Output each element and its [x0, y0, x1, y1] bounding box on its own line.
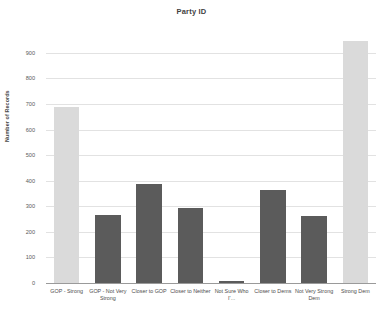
x-axis-baseline [46, 283, 376, 284]
x-tick-label: Closer to Neither [170, 288, 211, 295]
gridline [46, 206, 376, 207]
x-tick-label: Closer to GOP [129, 288, 170, 295]
y-tick-label: 400 [0, 178, 35, 184]
bar[interactable] [95, 215, 121, 283]
bar[interactable] [260, 190, 286, 283]
y-tick-label: 700 [0, 101, 35, 107]
gridline [46, 130, 376, 131]
bar[interactable] [343, 41, 369, 283]
gridline [46, 53, 376, 54]
y-tick-label: 900 [0, 50, 35, 56]
y-tick-label: 600 [0, 127, 35, 133]
bar[interactable] [301, 216, 327, 283]
y-tick-label: 500 [0, 152, 35, 158]
bar[interactable] [178, 208, 204, 283]
gridline [46, 181, 376, 182]
y-tick-label: 100 [0, 254, 35, 260]
bar[interactable] [136, 184, 162, 283]
bar[interactable] [219, 281, 245, 283]
plot-area: 0100200300400500600700800900 [46, 40, 376, 283]
x-tick-label: Not Very Strong Dem [294, 288, 335, 303]
y-tick-label: 300 [0, 203, 35, 209]
y-tick-label: 800 [0, 75, 35, 81]
bar[interactable] [54, 107, 80, 283]
chart-container: Party ID Number of Records 0100200300400… [0, 0, 383, 321]
y-tick-label: 0 [0, 280, 35, 286]
gridline [46, 78, 376, 79]
x-tick-label: GOP - Strong [46, 288, 87, 295]
x-tick-label: Strong Dem [335, 288, 376, 295]
x-tick-label: GOP - Not Very Strong [87, 288, 128, 303]
x-tick-label: Closer to Dems [252, 288, 293, 295]
chart-title: Party ID [0, 7, 383, 16]
y-tick-label: 200 [0, 229, 35, 235]
gridline [46, 155, 376, 156]
x-tick-label: Not Sure Who I'... [211, 288, 252, 303]
gridline [46, 104, 376, 105]
